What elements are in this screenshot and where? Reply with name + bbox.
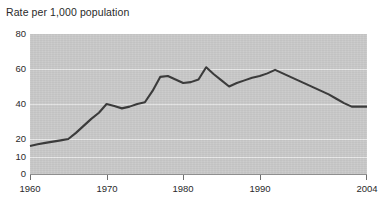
x-tick-1960 [30,175,31,180]
x-tick-1990 [260,175,261,180]
x-tick-label-1960: 1960 [19,183,40,194]
x-axis-line [30,174,367,175]
y-tick-label-0: 0 [2,169,26,179]
y-tick-label-60: 60 [2,64,26,74]
y-tick-label-80: 80 [2,29,26,39]
chart-title: Rate per 1,000 population [6,6,129,19]
x-tick-1980 [183,175,184,180]
y-tick-label-20: 20 [2,134,26,144]
y-axis-tick-labels: 80604020100 [0,34,26,174]
line-series-rate [30,67,367,146]
x-tick-2004 [366,175,367,180]
x-tick-label-1970: 1970 [96,183,117,194]
y-tick-label-40: 40 [2,99,26,109]
x-tick-1970 [107,175,108,180]
x-tick-label-1990: 1990 [249,183,270,194]
chart-figure: Rate per 1,000 population 80604020100 19… [0,0,389,208]
line-series-svg [30,34,367,174]
x-tick-label-2004: 2004 [356,183,377,194]
x-tick-label-1980: 1980 [172,183,193,194]
y-tick-label-10: 10 [2,152,26,162]
plot-area [30,34,367,174]
